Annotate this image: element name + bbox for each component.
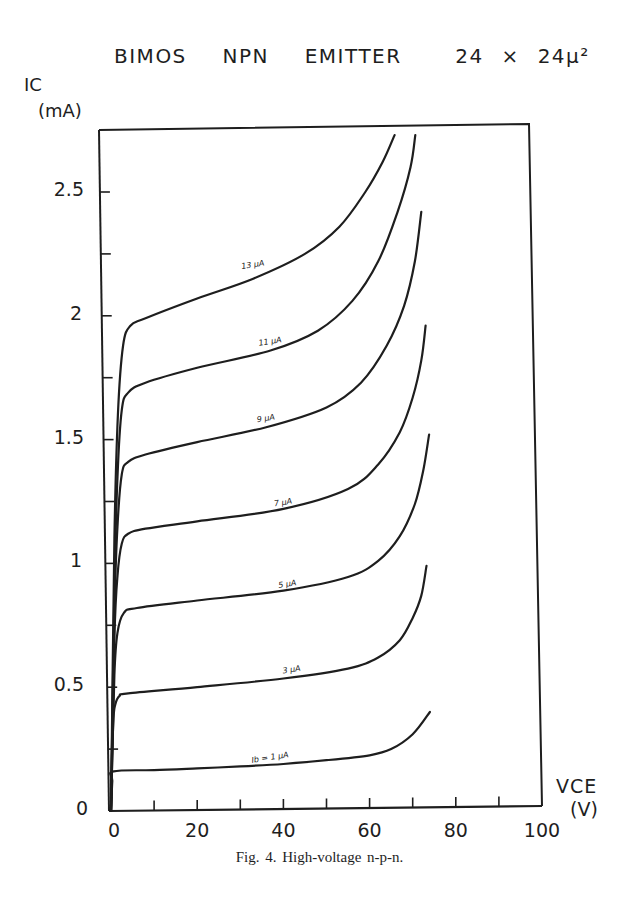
plot-frame: [99, 124, 542, 811]
ic-vce-curves: [110, 135, 430, 811]
x-axis-line: [109, 806, 542, 811]
curve-13-a: [111, 135, 395, 811]
plot-area: Ib = 1 µA3 µA5 µA7 µA9 µA11 µA13 µA: [0, 0, 639, 920]
curve-3-a: [111, 566, 427, 811]
curve-label-ib-1-a: Ib = 1 µA: [251, 750, 289, 765]
axis-ticks: [100, 192, 499, 810]
curve-label-3-a: 3 µA: [282, 664, 301, 676]
curve-label-9-a: 9 µA: [256, 412, 275, 424]
y-axis-line: [99, 130, 109, 811]
curve-label-11-a: 11 µA: [258, 335, 282, 348]
curve-7-a: [111, 326, 426, 811]
figure-caption: Fig. 4. High-voltage n-p-n.: [0, 849, 639, 866]
curve-label-13-a: 13 µA: [241, 258, 265, 271]
plot-frame-top-right: [99, 124, 542, 806]
